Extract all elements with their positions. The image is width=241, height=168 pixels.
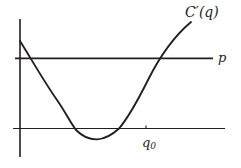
q0-label-subscript: 0	[150, 141, 156, 151]
marginal-cost-price-figure: C′(q) p q0	[0, 0, 241, 168]
marginal-cost-curve	[20, 22, 191, 139]
figure-canvas	[0, 0, 241, 168]
q0-axis-label: q0	[142, 136, 156, 151]
price-line-label: p	[218, 51, 226, 64]
marginal-cost-curve-label: C′(q)	[185, 5, 219, 19]
